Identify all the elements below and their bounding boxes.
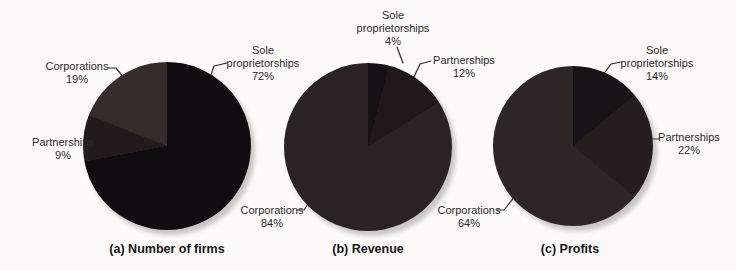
label-line: 4% bbox=[357, 35, 430, 48]
label-line: 12% bbox=[433, 67, 495, 80]
label-line: 64% bbox=[438, 217, 501, 230]
pie-b-revenue bbox=[284, 63, 452, 231]
label-line: Partnerships bbox=[433, 54, 495, 67]
label-sole-proprietorships: Soleproprietorships72% bbox=[227, 44, 300, 83]
label-line: 72% bbox=[227, 70, 300, 83]
label-corporations: Corporations19% bbox=[46, 60, 109, 86]
label-line: Sole bbox=[621, 44, 694, 57]
label-line: 19% bbox=[46, 73, 109, 86]
pie-charts-figure: (a) Number of firms (b) Revenue (c) Prof… bbox=[0, 0, 736, 270]
chart-c-caption: (c) Profits bbox=[541, 242, 599, 256]
label-line: Corporations bbox=[438, 204, 501, 217]
label-line: proprietorships bbox=[621, 57, 694, 70]
chart-a-caption: (a) Number of firms bbox=[109, 242, 224, 256]
label-line: 22% bbox=[658, 144, 720, 157]
label-corporations: Corporations84% bbox=[241, 204, 304, 230]
label-line: proprietorships bbox=[357, 22, 430, 35]
label-sole-proprietorships: Soleproprietorships4% bbox=[357, 9, 430, 48]
label-line: 9% bbox=[32, 149, 94, 162]
label-line: proprietorships bbox=[227, 57, 300, 70]
label-line: 84% bbox=[241, 217, 304, 230]
label-line: Sole bbox=[357, 9, 430, 22]
pie-c-profits bbox=[493, 66, 653, 226]
pie-a-number-of-firms bbox=[83, 62, 251, 230]
label-line: Corporations bbox=[46, 60, 109, 73]
label-line: Corporations bbox=[241, 204, 304, 217]
leader-line-sole-proprietorships bbox=[397, 47, 403, 63]
leader-line-partnerships bbox=[413, 61, 431, 79]
label-line: Sole bbox=[227, 44, 300, 57]
label-partnerships: Partnerships12% bbox=[433, 54, 495, 80]
label-line: Partnerships bbox=[658, 131, 720, 144]
label-line: 14% bbox=[621, 70, 694, 83]
label-partnerships: Partnerships9% bbox=[32, 136, 94, 162]
label-partnerships: Partnerships22% bbox=[658, 131, 720, 157]
chart-b-caption: (b) Revenue bbox=[332, 242, 404, 256]
label-corporations: Corporations64% bbox=[438, 204, 501, 230]
label-sole-proprietorships: Soleproprietorships14% bbox=[621, 44, 694, 83]
label-line: Partnerships bbox=[32, 136, 94, 149]
